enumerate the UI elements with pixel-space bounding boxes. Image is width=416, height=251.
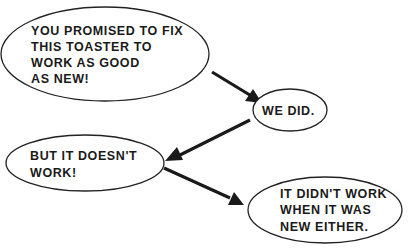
edge-customer-2-to-repair-2 [164, 168, 244, 205]
edge-repair-1-to-customer-2 [165, 120, 250, 161]
diagram-canvas: YOU PROMISED TO FIX THIS TOASTER TO WORK… [0, 0, 416, 251]
bubble-line: NEW EITHER. [280, 220, 369, 234]
ellipse-shape [1, 7, 209, 101]
bubble-line: YOU PROMISED TO FIX [31, 24, 183, 38]
bubble-line: THIS TOASTER TO [31, 40, 152, 54]
ellipse-shape [6, 135, 164, 191]
arrow-head-icon [228, 192, 244, 205]
speech-bubble-customer-1: YOU PROMISED TO FIX THIS TOASTER TO WORK… [1, 7, 209, 101]
arrow-line [180, 120, 250, 155]
speech-bubble-customer-2: BUT IT DOESN'T WORK! [6, 135, 164, 191]
bubble-line: WHEN IT WAS [280, 203, 371, 217]
arrow-line [164, 168, 230, 198]
bubble-line: IT DIDN'T WORK [280, 187, 387, 201]
edge-customer-1-to-repair-1 [212, 72, 262, 103]
bubble-line: BUT IT DOESN'T [30, 149, 137, 163]
bubble-line: WORK! [30, 166, 77, 180]
bubble-line: WE DID. [262, 104, 315, 118]
speech-bubble-repair-1: WE DID. [253, 89, 327, 131]
speech-bubble-repair-2: IT DIDN'T WORK WHEN IT WAS NEW EITHER. [248, 177, 402, 243]
bubble-line: AS NEW! [31, 72, 89, 86]
bubble-line: WORK AS GOOD [31, 56, 140, 70]
